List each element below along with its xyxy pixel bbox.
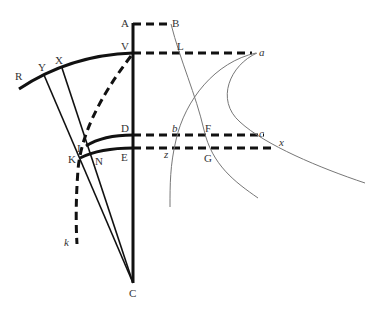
radial-line-YC <box>44 75 133 283</box>
label-N: N <box>95 155 103 167</box>
arc-RV <box>19 53 133 89</box>
label-B: B <box>172 17 179 29</box>
label-I: I <box>77 142 81 154</box>
label-x: x <box>278 136 284 148</box>
geometric-diagram: A B V L a R Y X D b F c I K N E z G x k … <box>0 0 381 309</box>
arc-ID <box>86 135 133 146</box>
label-a: a <box>259 46 265 58</box>
label-C: C <box>129 287 136 299</box>
label-Y: Y <box>38 61 46 73</box>
label-K: K <box>68 153 76 165</box>
label-X: X <box>55 54 63 66</box>
curve-BLFG <box>171 24 258 198</box>
label-z: z <box>163 148 169 160</box>
curve-acx <box>227 53 365 183</box>
label-b: b <box>172 122 178 134</box>
label-L: L <box>177 40 184 52</box>
label-V: V <box>121 40 129 52</box>
label-c: c <box>259 127 264 139</box>
label-R: R <box>15 70 23 82</box>
curve-abz <box>170 53 256 207</box>
radial-line-XC <box>62 68 133 283</box>
label-E: E <box>121 151 128 163</box>
label-G: G <box>204 152 212 164</box>
label-A: A <box>121 17 129 29</box>
label-D: D <box>121 122 129 134</box>
label-k: k <box>64 236 70 248</box>
label-F: F <box>205 122 211 134</box>
